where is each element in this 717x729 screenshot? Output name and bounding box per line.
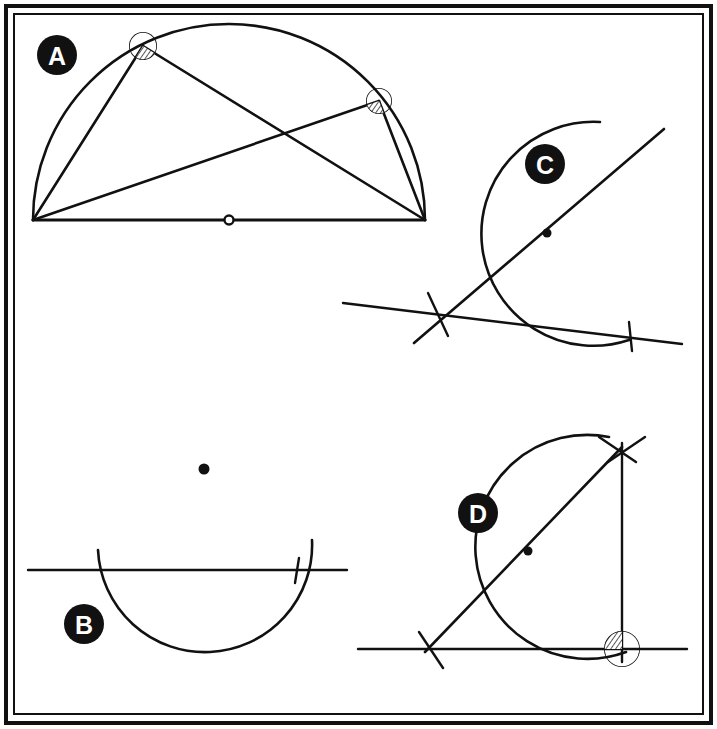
panel-d-center-point: [524, 547, 533, 556]
panel-a-center-point: [225, 216, 234, 225]
panel-d-badge-label: D: [469, 500, 487, 528]
panel-a-badge-label: A: [48, 42, 66, 70]
panel-c-badge: C: [525, 144, 565, 184]
panel-c-center-point: [543, 229, 552, 238]
panel-d-badge: D: [458, 493, 498, 533]
panel-b-badge-label: B: [75, 611, 93, 639]
figure-canvas: A B C: [0, 0, 717, 729]
figure-root: A B C: [0, 0, 717, 729]
panel-a-badge: A: [37, 35, 77, 75]
panel-b-center-point: [199, 464, 210, 475]
panel-c-badge-label: C: [536, 151, 554, 179]
panel-b-badge: B: [64, 604, 104, 644]
